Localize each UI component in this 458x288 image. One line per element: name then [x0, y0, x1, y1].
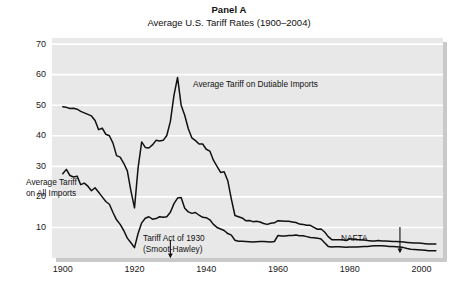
- x-axis-tick-label: 2000: [401, 265, 441, 274]
- x-axis-tick-label: 1900: [43, 265, 83, 274]
- annotation-all-imports-line1: Average Tariff: [26, 177, 77, 188]
- x-axis-tick-label: 1920: [115, 265, 155, 274]
- plot-canvas: [52, 38, 443, 258]
- annotation-smoot-hawley: Tariff Act of 1930 (Smoot-Hawley): [143, 233, 205, 254]
- y-axis-tick-label: 40: [20, 131, 46, 140]
- x-axis-tick-label: 1940: [186, 265, 226, 274]
- chart-figure: Panel A Average U.S. Tariff Rates (1900–…: [0, 0, 458, 288]
- y-axis-tick-label: 60: [20, 70, 46, 79]
- y-axis-tick-label: 10: [20, 223, 46, 232]
- y-axis-tick-label: 30: [20, 162, 46, 171]
- gridlines: [52, 44, 443, 227]
- annotation-smoot-line1: Tariff Act of 1930: [143, 233, 205, 244]
- annotation-dutiable-series: Average Tariff on Dutiable Imports: [193, 79, 318, 90]
- annotation-all-imports-series: Average Tariff on All Imports: [26, 177, 77, 198]
- series-line-all-imports: [63, 169, 436, 250]
- y-axis-tick-label: 50: [20, 101, 46, 110]
- chart-title-block: Panel A Average U.S. Tariff Rates (1900–…: [0, 4, 458, 29]
- annotation-smoot-line2: (Smoot-Hawley): [143, 244, 205, 255]
- y-axis-tick-label: 70: [20, 40, 46, 49]
- annotation-nafta: NAFTA: [341, 233, 368, 244]
- panel-title: Panel A: [0, 4, 458, 16]
- x-axis-tick-label: 1980: [330, 265, 370, 274]
- series-layer: [63, 77, 436, 250]
- chart-subtitle: Average U.S. Tariff Rates (1900–2004): [0, 16, 458, 29]
- annotation-all-imports-line2: on All Imports: [26, 188, 77, 199]
- event-marker-arrowhead: [398, 249, 403, 254]
- x-axis-tick-label: 1960: [258, 265, 298, 274]
- series-line-dutiable-imports: [63, 77, 436, 244]
- event-marker-arrowhead: [168, 254, 173, 259]
